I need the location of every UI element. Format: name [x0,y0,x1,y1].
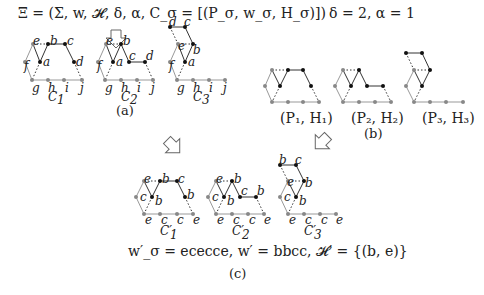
svg-text:c: c [295,153,302,167]
svg-text:e: e [217,213,224,227]
pair-3 [404,51,465,104]
svg-text:e: e [193,213,200,227]
svg-text:b: b [257,184,265,198]
svg-text:e: e [287,175,294,189]
svg-text:c: c [241,184,248,198]
svg-text:b: b [50,34,58,48]
svg-text:f: f [168,59,176,73]
svg-text:b: b [305,176,313,190]
svg-text:c: c [212,190,219,204]
label-c2: C [121,90,130,104]
svg-text:e: e [178,39,185,53]
svg-text:c: c [249,213,256,227]
svg-text:b: b [123,34,131,48]
label-c3: C [193,90,202,104]
svg-text:c: c [129,49,136,63]
panel-c-equation: w′_σ = ececce, w′ = bbcc, 𝓗′ = {(b, e)} [128,243,408,260]
pair-2 [333,68,393,104]
svg-text:c: c [140,190,147,204]
config-c2-prime: eb cbcb ecce [206,172,271,227]
svg-text:a: a [188,55,195,69]
pair-label-2: (P₂, H₂) [351,110,404,126]
svg-text:g: g [32,81,40,95]
config-c2: eb facd ghij [96,34,155,95]
caption-a: (a) [116,103,134,118]
svg-text:d: d [76,55,84,69]
svg-text:c: c [178,172,185,186]
svg-text:1: 1 [57,93,65,107]
svg-text:c: c [284,190,291,204]
svg-text:e: e [216,172,223,186]
svg-text:e: e [336,213,343,227]
svg-text:e: e [264,213,271,227]
svg-text:a: a [43,55,50,69]
svg-text:c: c [67,34,74,48]
pair-label-1: (P₁, H₁) [280,110,333,126]
pair-1 [263,68,321,104]
svg-text:2: 2 [241,228,250,242]
label-c1: C [48,90,57,104]
arrow-down-left-icon [308,129,335,156]
svg-text:e: e [289,213,296,227]
svg-text:j: j [220,81,227,95]
config-c3-prime: bc eb cb ecce [278,153,343,227]
svg-text:3: 3 [202,93,210,107]
svg-text:c: c [177,213,184,227]
svg-text:c: c [184,15,191,29]
svg-text:j: j [148,81,155,95]
svg-text:d: d [146,49,154,63]
svg-text:f: f [96,59,104,73]
svg-text:b: b [279,153,287,167]
svg-text:b: b [155,194,163,208]
svg-text:g: g [177,81,185,95]
svg-text:a: a [116,55,123,69]
svg-text:c: c [321,213,328,227]
svg-text:e: e [106,34,113,48]
svg-text:d: d [169,15,177,29]
svg-text:i: i [65,81,69,95]
svg-text:g: g [105,81,113,95]
svg-text:1: 1 [170,228,178,242]
pair-label-3: (P₃, H₃) [422,110,475,126]
svg-text:b: b [187,188,195,202]
svg-text:b: b [162,172,170,186]
svg-text:e: e [33,34,40,48]
svg-text:e: e [144,172,151,186]
svg-text:f: f [23,59,31,73]
svg-text:e: e [145,213,152,227]
config-c1-prime: ebc cbb ecce [134,172,200,227]
svg-text:3: 3 [314,228,322,242]
svg-text:b: b [227,194,235,208]
caption-b: (b) [364,126,382,141]
svg-text:b: b [299,194,307,208]
config-c3: dc eb fa ghij [168,15,227,95]
svg-text:j: j [77,81,84,95]
caption-c: (c) [229,266,246,281]
config-c1: ebc fad ghij [23,34,84,95]
arrow-down-right-icon [160,133,187,160]
